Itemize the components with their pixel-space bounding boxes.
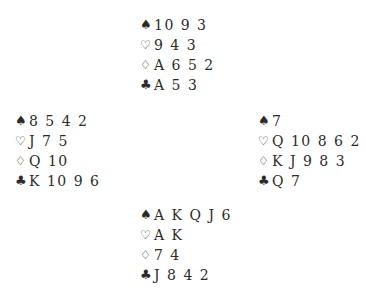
east-hearts-cards: Q 10 8 6 2 (272, 131, 361, 151)
north-hearts-row: ♡ 9 4 3 (140, 35, 215, 55)
north-clubs-cards: A 5 3 (154, 75, 198, 95)
south-diamonds-row: ♢ 7 4 (140, 245, 232, 265)
north-hand: ♠ 10 9 3 ♡ 9 4 3 ♢ A 6 5 2 ♣ A 5 3 (140, 15, 215, 95)
west-clubs-cards: K 10 9 6 (29, 171, 100, 191)
south-spades-cards: A K Q J 6 (154, 205, 232, 225)
west-spades-row: ♠ 8 5 4 2 (15, 111, 100, 131)
club-icon: ♣ (258, 171, 271, 191)
north-hearts-cards: 9 4 3 (154, 35, 197, 55)
east-hearts-row: ♡ Q 10 8 6 2 (258, 131, 361, 151)
south-hand: ♠ A K Q J 6 ♡ A K ♢ 7 4 ♣ J 8 4 2 (140, 205, 232, 285)
east-diamonds-cards: K J 9 8 3 (272, 151, 346, 171)
diamond-icon: ♢ (15, 151, 28, 171)
north-spades-cards: 10 9 3 (154, 15, 208, 35)
north-spades-row: ♠ 10 9 3 (140, 15, 215, 35)
club-icon: ♣ (140, 75, 153, 95)
spade-icon: ♠ (140, 205, 153, 225)
south-clubs-row: ♣ J 8 4 2 (140, 265, 232, 285)
heart-icon: ♡ (140, 225, 153, 245)
west-hearts-cards: J 7 5 (29, 131, 69, 151)
north-diamonds-cards: A 6 5 2 (154, 55, 215, 75)
west-diamonds-cards: Q 10 (29, 151, 69, 171)
east-clubs-cards: Q 7 (272, 171, 301, 191)
south-diamonds-cards: 7 4 (154, 245, 181, 265)
diamond-icon: ♢ (140, 55, 153, 75)
east-spades-cards: 7 (272, 111, 282, 131)
heart-icon: ♡ (258, 131, 271, 151)
west-hearts-row: ♡ J 7 5 (15, 131, 100, 151)
spade-icon: ♠ (258, 111, 271, 131)
heart-icon: ♡ (15, 131, 28, 151)
east-diamonds-row: ♢ K J 9 8 3 (258, 151, 361, 171)
south-hearts-row: ♡ A K (140, 225, 232, 245)
south-spades-row: ♠ A K Q J 6 (140, 205, 232, 225)
diamond-icon: ♢ (258, 151, 271, 171)
diamond-icon: ♢ (140, 245, 153, 265)
east-hand: ♠ 7 ♡ Q 10 8 6 2 ♢ K J 9 8 3 ♣ Q 7 (258, 111, 361, 191)
west-hand: ♠ 8 5 4 2 ♡ J 7 5 ♢ Q 10 ♣ K 10 9 6 (15, 111, 100, 191)
east-spades-row: ♠ 7 (258, 111, 361, 131)
north-clubs-row: ♣ A 5 3 (140, 75, 215, 95)
west-spades-cards: 8 5 4 2 (29, 111, 88, 131)
club-icon: ♣ (15, 171, 28, 191)
spade-icon: ♠ (15, 111, 28, 131)
south-clubs-cards: J 8 4 2 (154, 265, 210, 285)
spade-icon: ♠ (140, 15, 153, 35)
north-diamonds-row: ♢ A 6 5 2 (140, 55, 215, 75)
south-hearts-cards: A K (154, 225, 184, 245)
heart-icon: ♡ (140, 35, 153, 55)
club-icon: ♣ (140, 265, 153, 285)
west-diamonds-row: ♢ Q 10 (15, 151, 100, 171)
east-clubs-row: ♣ Q 7 (258, 171, 361, 191)
west-clubs-row: ♣ K 10 9 6 (15, 171, 100, 191)
